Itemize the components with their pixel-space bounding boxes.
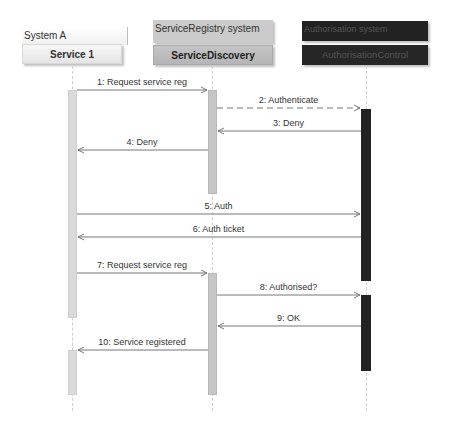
message-5-label: 5: Auth [77,201,360,211]
message-10-label: 10: Service registered [77,337,207,347]
message-3-label: 3: Deny [217,118,360,128]
message-4-label: 4: Deny [77,137,207,147]
message-6-label: 6: Auth ticket [77,224,360,234]
message-8-label: 8: Authorised? [217,282,360,292]
message-7-label: 7: Request service reg [77,260,207,270]
message-arrows [0,0,453,440]
message-9-label: 9: OK [217,313,360,323]
message-1-label: 1: Request service reg [77,77,207,87]
message-2-label: 2: Authenticate [217,95,360,105]
